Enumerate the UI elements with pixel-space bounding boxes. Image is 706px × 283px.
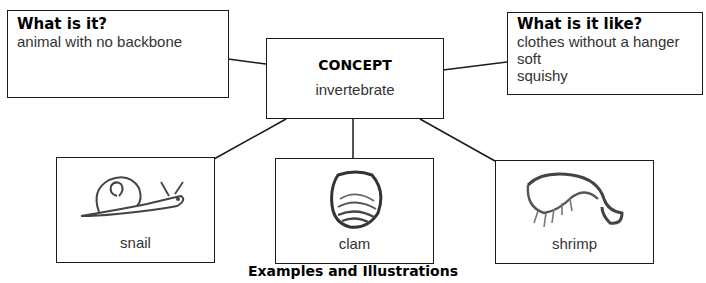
- what-is-it-like-line: squishy: [517, 67, 702, 84]
- examples-caption: Examples and Illustrations: [0, 263, 706, 279]
- shrimp-drawing-icon: [522, 171, 632, 233]
- snail-drawing-icon: [77, 166, 197, 226]
- what-is-it-box: What is it? animal with no backbone: [7, 10, 229, 98]
- what-is-it-heading: What is it?: [17, 16, 228, 33]
- concept-heading: CONCEPT: [267, 57, 443, 73]
- what-is-it-like-box: What is it like? clothes without a hange…: [507, 12, 703, 95]
- example-snail-box: snail: [56, 157, 215, 263]
- example-label-clam: clam: [276, 235, 433, 252]
- example-shrimp-box: shrimp: [495, 160, 654, 264]
- example-clam-box: clam: [275, 158, 434, 264]
- concept-box: CONCEPT invertebrate: [266, 38, 444, 119]
- what-is-it-like-line: soft: [517, 50, 702, 67]
- example-label-snail: snail: [57, 234, 214, 251]
- what-is-it-like-heading: What is it like?: [517, 16, 702, 33]
- clam-drawing-icon: [328, 169, 384, 231]
- example-label-shrimp: shrimp: [496, 235, 653, 252]
- concept-value: invertebrate: [267, 81, 443, 98]
- what-is-it-line: animal with no backbone: [17, 33, 228, 50]
- what-is-it-like-line: clothes without a hanger: [517, 33, 702, 50]
